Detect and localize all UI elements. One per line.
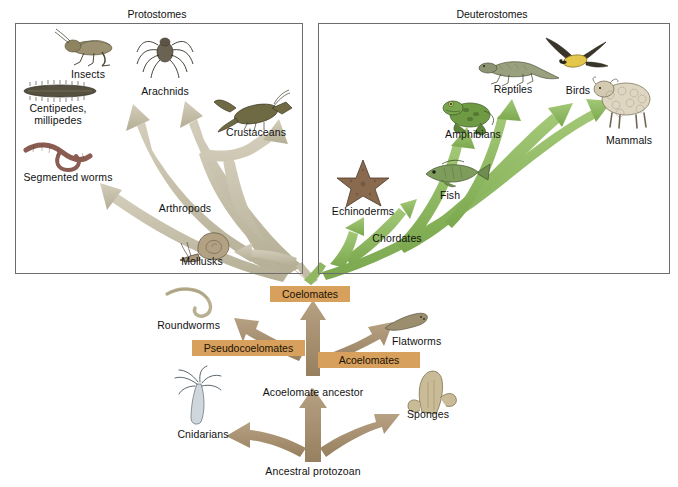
body-cavity-box: Acoelomates (318, 352, 420, 368)
deuterostome-taxon-label: Birds (566, 84, 590, 96)
phylogeny-figure: Protostomes Deuterostomes InsectsArachni… (0, 0, 678, 487)
deuterostome-taxon-label: Amphibians (445, 128, 501, 140)
deuterostome-taxon-label: Reptiles (494, 83, 533, 95)
deuterostomes-panel (318, 23, 670, 274)
tree-taxon-label: Sponges (407, 408, 449, 420)
tree-taxon-label: Ancestral protozoan (265, 465, 360, 477)
tree-taxon-label: Cnidarians (177, 428, 228, 440)
protostomes-panel (15, 23, 303, 274)
body-cavity-box: Pseudocoelomates (192, 340, 305, 356)
protostome-taxon-label: millipedes (34, 114, 82, 126)
tree-taxon-label: Acoelomate ancestor (263, 386, 364, 398)
tree-taxon-label: Roundworms (157, 319, 220, 331)
protostome-taxon-label: Arachnids (141, 85, 189, 97)
protostome-taxon-label: Arthropods (159, 202, 211, 214)
hydra-cnidarian-icon (175, 366, 221, 424)
deuterostome-taxon-label: Mammals (606, 134, 652, 146)
deuterostome-taxon-label: Chordates (372, 232, 421, 244)
protostome-taxon-label: Segmented worms (23, 171, 112, 183)
protostome-taxon-label: Crustaceans (226, 126, 286, 138)
roundworm-nematode-icon (167, 289, 210, 316)
body-cavity-box: Coelomates (270, 286, 350, 302)
deuterostome-taxon-label: Fish (440, 189, 460, 201)
flatworm-icon (385, 313, 427, 330)
protostome-taxon-label: Mollusks (181, 255, 223, 267)
tree-taxon-label: Flatworms (392, 335, 441, 347)
protostome-taxon-label: Insects (71, 68, 105, 80)
deuterostome-taxon-label: Echinoderms (332, 205, 394, 217)
protostomes-title: Protostomes (128, 8, 187, 20)
protostome-taxon-label: Centipedes, (29, 102, 86, 114)
deuterostomes-title: Deuterostomes (456, 8, 527, 20)
ancestral-tree-arrows (226, 300, 400, 462)
